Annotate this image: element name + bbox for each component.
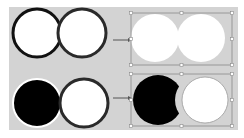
white-circle[interactable] xyxy=(182,77,228,123)
left-outlined-circle[interactable] xyxy=(13,9,61,57)
union-left-lobe[interactable] xyxy=(131,14,179,62)
white-outlined-circle[interactable] xyxy=(60,79,108,127)
right-outlined-circle[interactable] xyxy=(58,9,106,57)
shape-operations-diagram xyxy=(0,0,244,138)
black-filled-circle[interactable] xyxy=(13,79,61,127)
black-crescent[interactable] xyxy=(133,75,183,125)
union-right-lobe[interactable] xyxy=(177,14,225,62)
